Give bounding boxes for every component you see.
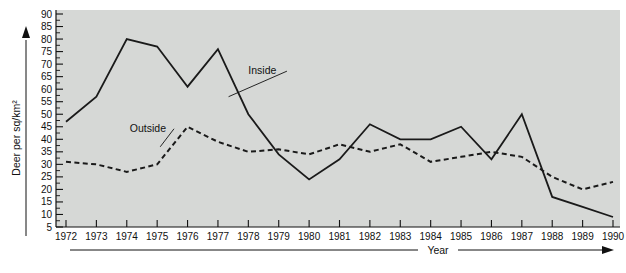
- series-label-outside: Outside: [130, 122, 166, 134]
- x-tick-label: 1979: [268, 231, 291, 242]
- y-tick-label: 50: [41, 109, 53, 120]
- x-axis-title: Year: [427, 244, 449, 256]
- y-tick-label: 80: [41, 34, 53, 45]
- y-tick-label: 60: [41, 84, 53, 95]
- y-axis-tick-labels: 51015202530354045505560657075808590: [41, 9, 53, 233]
- y-tick-label: 35: [41, 146, 53, 157]
- x-tick-label: 1982: [359, 231, 382, 242]
- y-tick-label: 20: [41, 184, 53, 195]
- y-tick-label: 85: [41, 21, 53, 32]
- y-tick-label: 70: [41, 59, 53, 70]
- y-tick-label: 40: [41, 134, 53, 145]
- x-tick-label: 1984: [420, 231, 443, 242]
- x-tick-label: 1978: [237, 231, 260, 242]
- y-tick-label: 90: [41, 9, 53, 20]
- x-tick-label: 1985: [450, 231, 473, 242]
- chart-canvas: 51015202530354045505560657075808590 1972…: [0, 0, 626, 273]
- y-tick-label: 45: [41, 121, 53, 132]
- x-tick-label: 1975: [146, 231, 169, 242]
- x-tick-label: 1972: [55, 231, 78, 242]
- y-tick-label: 10: [41, 209, 53, 220]
- y-tick-label: 30: [41, 159, 53, 170]
- y-tick-label: 55: [41, 96, 53, 107]
- x-tick-label: 1981: [328, 231, 351, 242]
- x-tick-label: 1974: [116, 231, 139, 242]
- x-tick-label: 1986: [480, 231, 503, 242]
- y-tick-label: 5: [46, 222, 52, 233]
- deer-density-line-chart: 51015202530354045505560657075808590 1972…: [0, 0, 626, 273]
- y-axis-title: Deer per sq/km²: [10, 100, 22, 176]
- y-tick-label: 25: [41, 171, 53, 182]
- x-tick-label: 1977: [207, 231, 230, 242]
- x-tick-label: 1987: [511, 231, 534, 242]
- x-tick-label: 1989: [571, 231, 594, 242]
- x-tick-label: 1990: [602, 231, 625, 242]
- x-tick-label: 1973: [85, 231, 108, 242]
- y-tick-label: 75: [41, 46, 53, 57]
- y-tick-label: 65: [41, 71, 53, 82]
- x-tick-label: 1980: [298, 231, 321, 242]
- x-tick-label: 1976: [176, 231, 199, 242]
- series-label-inside: Inside: [248, 64, 276, 76]
- x-tick-label: 1983: [389, 231, 412, 242]
- x-tick-label: 1988: [541, 231, 564, 242]
- y-tick-label: 15: [41, 196, 53, 207]
